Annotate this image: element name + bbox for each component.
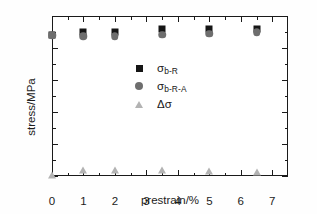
x-tick-major-top bbox=[178, 16, 179, 22]
data-point-triangle bbox=[79, 167, 87, 174]
y-tick-major bbox=[52, 144, 58, 145]
data-point-circle bbox=[80, 32, 88, 40]
legend-item-delta-sigma: Δσ bbox=[130, 96, 187, 112]
x-tick-major-top bbox=[209, 16, 210, 22]
y-tick-major-right bbox=[282, 144, 288, 145]
data-point-circle bbox=[111, 32, 119, 40]
legend-label-delta-sigma: Δσ bbox=[157, 98, 172, 110]
y-tick-major-right bbox=[282, 16, 288, 17]
x-tick-minor-top bbox=[99, 16, 100, 20]
y-axis-title: stress/MPa bbox=[25, 78, 37, 136]
x-tick-major-top bbox=[146, 16, 147, 22]
data-point-triangle bbox=[48, 172, 56, 179]
x-tick-major-top bbox=[83, 16, 84, 22]
legend-swatch-square-icon bbox=[130, 65, 148, 72]
chart-legend: σb-R σb-R-A Δσ bbox=[130, 60, 187, 114]
data-point-circle bbox=[206, 30, 214, 38]
x-tick-minor bbox=[131, 173, 132, 177]
x-tick-minor-top bbox=[131, 16, 132, 20]
y-tick-minor-right bbox=[285, 160, 289, 161]
x-tick-minor-top bbox=[257, 16, 258, 20]
x-tick-minor bbox=[194, 173, 195, 177]
y-tick-minor-right bbox=[285, 64, 289, 65]
y-tick-minor-right bbox=[285, 96, 289, 97]
y-tick-major-right bbox=[282, 48, 288, 49]
legend-swatch-circle-icon bbox=[130, 82, 148, 90]
y-tick-major bbox=[52, 112, 58, 113]
y-tick-minor bbox=[52, 160, 56, 161]
x-tick-minor-top bbox=[162, 16, 163, 20]
legend-label-sigma-b-r: σb-R bbox=[157, 62, 178, 74]
data-point-triangle bbox=[205, 167, 213, 174]
x-tick-major-top bbox=[115, 16, 116, 22]
y-tick-minor-right bbox=[285, 32, 289, 33]
plot-area: 0100200300400500 01234567 σb-R σb-R-A Δσ bbox=[52, 16, 288, 176]
y-tick-minor-right bbox=[285, 128, 289, 129]
x-tick-major-top bbox=[241, 16, 242, 22]
legend-swatch-triangle-icon bbox=[130, 101, 148, 108]
data-point-triangle bbox=[111, 167, 119, 174]
data-point-triangle bbox=[158, 166, 166, 173]
data-point-circle bbox=[253, 28, 261, 36]
legend-item-sigma-b-r: σb-R bbox=[130, 60, 187, 76]
y-tick-minor bbox=[52, 96, 56, 97]
x-tick-minor bbox=[68, 173, 69, 177]
x-tick-minor-top bbox=[225, 16, 226, 20]
legend-label-sigma-b-r-a: σb-R-A bbox=[157, 80, 187, 92]
x-tick-major bbox=[178, 170, 179, 176]
y-tick-minor bbox=[52, 128, 56, 129]
y-tick-major bbox=[52, 48, 58, 49]
y-tick-minor bbox=[52, 64, 56, 65]
x-tick-minor bbox=[225, 173, 226, 177]
x-tick-minor bbox=[99, 173, 100, 177]
x-tick-major bbox=[146, 170, 147, 176]
x-tick-major bbox=[241, 170, 242, 176]
data-point-triangle bbox=[253, 169, 261, 176]
x-tick-major-top bbox=[272, 16, 273, 22]
y-tick-major-right bbox=[282, 112, 288, 113]
x-tick-minor-top bbox=[194, 16, 195, 20]
figure-canvas: stress/MPa 0100200300400500 01234567 σb-… bbox=[0, 0, 317, 214]
y-tick-major bbox=[52, 80, 58, 81]
y-tick-major-right bbox=[282, 176, 288, 177]
data-point-circle bbox=[158, 31, 166, 39]
data-point-circle bbox=[48, 31, 56, 39]
x-axis-title: prestrain/% bbox=[52, 194, 288, 206]
x-tick-minor-top bbox=[68, 16, 69, 20]
x-tick-major bbox=[272, 170, 273, 176]
x-tick-major-top bbox=[52, 16, 53, 22]
legend-item-sigma-b-r-a: σb-R-A bbox=[130, 78, 187, 94]
y-tick-major-right bbox=[282, 80, 288, 81]
